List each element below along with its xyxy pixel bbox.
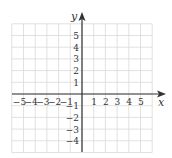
x-tick-label: 1 xyxy=(91,97,97,107)
y-tick-label: 3 xyxy=(73,54,79,64)
coordinate-plane: x y −5−4−3−2−112345 54321−1−2−3−4 xyxy=(0,0,172,158)
y-axis-label: y xyxy=(70,10,78,23)
x-axis-label: x xyxy=(158,96,165,109)
y-tick-label: −3 xyxy=(66,125,80,135)
y-tick-label: 5 xyxy=(73,31,79,41)
y-tick-label: 1 xyxy=(73,78,79,88)
x-tick-label: 5 xyxy=(138,97,144,107)
y-tick-label: −1 xyxy=(66,101,79,111)
y-tick-labels: 54321−1−2−3−4 xyxy=(66,31,80,146)
x-tick-label: 4 xyxy=(126,97,132,107)
y-tick-label: 4 xyxy=(73,43,79,53)
y-tick-label: 2 xyxy=(73,66,79,76)
x-tick-label: 2 xyxy=(103,97,109,107)
x-tick-label: 3 xyxy=(115,97,121,107)
y-tick-label: −2 xyxy=(66,113,79,123)
y-tick-label: −4 xyxy=(66,136,80,146)
